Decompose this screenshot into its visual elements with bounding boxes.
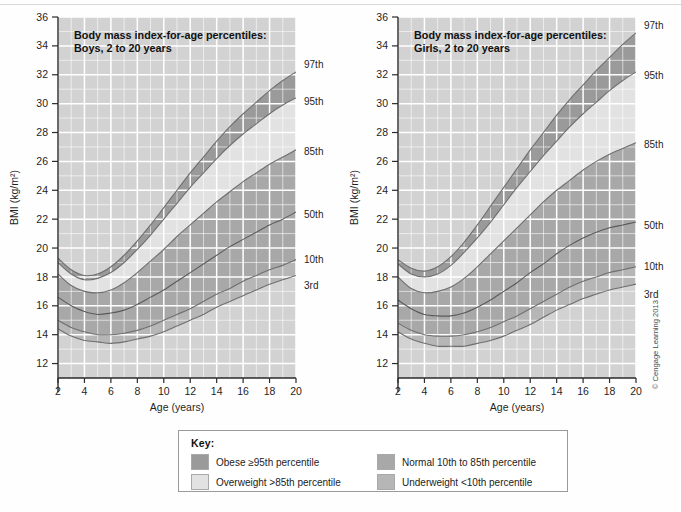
legend-items: Obese ≥95th percentileNormal 10th to 85t…: [191, 454, 557, 490]
x-axis-title: Age (years): [150, 401, 204, 413]
y-tick-label: 16: [376, 299, 388, 311]
x-tick-label: 10: [498, 385, 510, 397]
x-tick-label: 18: [604, 385, 616, 397]
copyright-notice: © Cengage Learning 2013: [651, 300, 660, 389]
legend-item-overweight: Overweight >85th percentile: [191, 474, 377, 490]
legend-swatch-underweight: [377, 474, 395, 490]
percentile-label-85th: 85th: [644, 139, 663, 150]
x-tick-label: 14: [551, 385, 563, 397]
y-tick-label: 20: [36, 242, 48, 254]
percentile-label-97th: 97th: [304, 59, 323, 70]
y-tick-label: 12: [36, 357, 48, 369]
x-tick-label: 12: [184, 385, 196, 397]
y-tick-label: 28: [376, 126, 388, 138]
y-tick-label: 20: [376, 242, 388, 254]
x-tick-label: 14: [211, 385, 223, 397]
percentile-label-3rd: 3rd: [304, 280, 318, 291]
y-tick-label: 36: [36, 11, 48, 23]
y-tick-label: 14: [36, 328, 48, 340]
y-tick-label: 30: [376, 97, 388, 109]
legend-item-obese: Obese ≥95th percentile: [191, 454, 377, 470]
x-tick-label: 12: [524, 385, 536, 397]
percentile-label-95th: 95th: [644, 70, 663, 81]
legend-title: Key:: [191, 437, 557, 449]
x-tick-label: 16: [237, 385, 249, 397]
x-axis-title: Age (years): [490, 401, 544, 413]
legend-swatch-obese: [191, 454, 209, 470]
legend-label-obese: Obese ≥95th percentile: [216, 457, 319, 468]
x-tick-label: 6: [448, 385, 454, 397]
chart-title-line1: Body mass index-for-age percentiles:: [74, 29, 267, 41]
y-tick-label: 24: [376, 184, 388, 196]
y-tick-label: 22: [376, 213, 388, 225]
y-tick-label: 26: [36, 155, 48, 167]
legend-label-overweight: Overweight >85th percentile: [216, 477, 341, 488]
legend-label-normal: Normal 10th to 85th percentile: [402, 457, 536, 468]
y-tick-label: 26: [376, 155, 388, 167]
legend-label-underweight: Underweight <10th percentile: [402, 477, 532, 488]
page-root: 1214161820222426283032343624681012141618…: [0, 0, 681, 512]
percentile-label-50th: 50th: [304, 209, 323, 220]
percentile-labels: 97th95th85th50th10th3rd: [644, 20, 663, 299]
y-axis: 12141618202224262830323436: [36, 11, 58, 370]
y-tick-label: 12: [376, 357, 388, 369]
y-tick-label: 30: [36, 97, 48, 109]
chart-svg-girls: 1214161820222426283032343624681012141618…: [340, 0, 681, 420]
chart-svg-boys: 1214161820222426283032343624681012141618…: [0, 0, 341, 420]
percentile-labels: 97th95th85th50th10th3rd: [304, 59, 323, 291]
x-axis: 2468101214161820: [55, 378, 302, 397]
y-tick-label: 16: [36, 299, 48, 311]
y-tick-label: 28: [36, 126, 48, 138]
x-tick-label: 4: [422, 385, 428, 397]
x-tick-label: 16: [577, 385, 589, 397]
y-tick-label: 18: [36, 271, 48, 283]
x-tick-label: 10: [158, 385, 170, 397]
percentile-label-3rd: 3rd: [644, 289, 658, 300]
y-tick-label: 34: [376, 39, 388, 51]
legend-key: Key: Obese ≥95th percentileNormal 10th t…: [178, 430, 568, 492]
x-tick-label: 20: [630, 385, 642, 397]
y-tick-label: 34: [36, 39, 48, 51]
x-tick-label: 2: [55, 385, 61, 397]
y-tick-label: 18: [376, 271, 388, 283]
x-axis: 2468101214161820: [395, 378, 642, 397]
chart-girls: 1214161820222426283032343624681012141618…: [340, 0, 681, 420]
legend-swatch-normal: [377, 454, 395, 470]
x-tick-label: 20: [290, 385, 302, 397]
chart-title-line2: Girls, 2 to 20 years: [414, 42, 510, 54]
y-tick-label: 14: [376, 328, 388, 340]
percentile-label-95th: 95th: [304, 96, 323, 107]
chart-title-line2: Boys, 2 to 20 years: [74, 42, 172, 54]
x-tick-label: 6: [108, 385, 114, 397]
legend-item-normal: Normal 10th to 85th percentile: [377, 454, 567, 470]
y-axis-title: BMI (kg/m²): [8, 170, 20, 225]
x-tick-label: 8: [474, 385, 480, 397]
chart-title-line1: Body mass index-for-age percentiles:: [414, 29, 607, 41]
y-axis-title: BMI (kg/m²): [348, 170, 360, 225]
y-tick-label: 32: [36, 68, 48, 80]
x-tick-label: 8: [134, 385, 140, 397]
percentile-label-50th: 50th: [644, 220, 663, 231]
x-tick-label: 4: [82, 385, 88, 397]
chart-boys: 1214161820222426283032343624681012141618…: [0, 0, 341, 420]
y-tick-label: 36: [376, 11, 388, 23]
legend-swatch-overweight: [191, 474, 209, 490]
percentile-label-10th: 10th: [304, 254, 323, 265]
legend-item-underweight: Underweight <10th percentile: [377, 474, 567, 490]
percentile-label-97th: 97th: [644, 20, 663, 31]
y-tick-label: 22: [36, 213, 48, 225]
percentile-label-10th: 10th: [644, 261, 663, 272]
x-tick-label: 18: [264, 385, 276, 397]
percentile-label-85th: 85th: [304, 146, 323, 157]
y-axis: 12141618202224262830323436: [376, 11, 398, 370]
x-tick-label: 2: [395, 385, 401, 397]
y-tick-label: 32: [376, 68, 388, 80]
y-tick-label: 24: [36, 184, 48, 196]
